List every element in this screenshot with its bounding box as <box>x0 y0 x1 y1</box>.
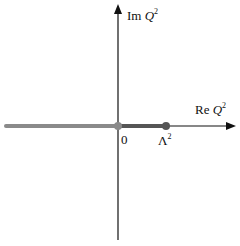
lambda-dot <box>162 122 170 130</box>
origin-label: 0 <box>121 132 128 147</box>
lambda-label: Λ2 <box>158 132 171 148</box>
complex-plane-diagram: Im Q2 Re Q2 0 Λ2 <box>0 0 240 246</box>
imaginary-axis-arrow-icon <box>114 4 122 14</box>
real-axis-label: Re Q2 <box>195 101 226 117</box>
origin-dot <box>114 122 122 130</box>
real-axis-arrow-icon <box>226 122 236 130</box>
imaginary-axis-label: Im Q2 <box>127 7 158 23</box>
